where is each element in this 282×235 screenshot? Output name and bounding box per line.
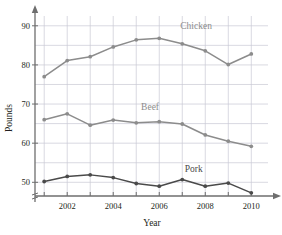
data-point	[226, 63, 230, 67]
data-point	[249, 52, 253, 56]
data-point	[134, 38, 138, 42]
data-point	[203, 49, 207, 53]
data-point	[42, 180, 46, 184]
line-chart: 5060708090 20022004200620082010 ChickenB…	[0, 0, 282, 235]
data-point	[65, 59, 69, 63]
x-tick-label: 2004	[105, 201, 123, 211]
data-point	[249, 144, 253, 148]
data-point	[42, 75, 46, 79]
data-point	[157, 120, 161, 124]
x-axis	[35, 192, 281, 199]
y-tick-label: 80	[22, 60, 31, 70]
series-label-beef: Beef	[141, 102, 160, 112]
data-point	[134, 182, 138, 186]
data-point	[134, 121, 138, 125]
data-point	[226, 139, 230, 143]
x-tick-label: 2006	[151, 201, 168, 211]
series-label-chicken: Chicken	[180, 21, 212, 31]
x-tick-labels: 20022004200620082010	[59, 201, 260, 211]
data-point	[203, 184, 207, 188]
y-axis	[32, 5, 38, 202]
chart-canvas: 5060708090 20022004200620082010 ChickenB…	[0, 0, 282, 235]
y-tick-label: 50	[22, 177, 31, 187]
data-point	[111, 45, 115, 49]
data-point	[249, 191, 253, 195]
data-point	[157, 184, 161, 188]
data-point	[180, 178, 184, 182]
x-tick-label: 2002	[59, 201, 76, 211]
data-point	[88, 55, 92, 59]
data-point	[180, 42, 184, 46]
data-point	[111, 118, 115, 122]
data-point	[157, 36, 161, 40]
data-point	[88, 173, 92, 177]
data-point	[203, 133, 207, 137]
data-point	[65, 112, 69, 116]
y-tick-label: 70	[22, 99, 31, 109]
y-tick-label: 90	[22, 21, 31, 31]
y-axis-title: Pounds	[4, 104, 14, 132]
data-point	[88, 123, 92, 127]
x-axis-title: Year	[143, 218, 161, 228]
series-annotations: ChickenBeefPork	[141, 21, 212, 174]
data-point	[180, 122, 184, 126]
series-label-pork: Pork	[185, 164, 203, 174]
x-tick-label: 2010	[243, 201, 260, 211]
data-series	[42, 36, 253, 194]
data-point	[65, 175, 69, 179]
data-point	[42, 118, 46, 122]
series-beef	[42, 112, 253, 148]
data-point	[111, 176, 115, 180]
y-tick-label: 60	[22, 138, 31, 148]
data-point	[226, 181, 230, 185]
series-chicken	[42, 36, 253, 78]
series-pork	[42, 173, 253, 195]
x-tick-label: 2008	[197, 201, 214, 211]
